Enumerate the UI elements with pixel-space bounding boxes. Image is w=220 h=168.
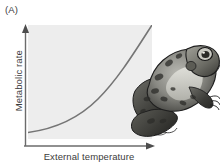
x-axis-label: External temperature: [24, 152, 154, 162]
y-axis-label: Metabolic rate: [14, 36, 24, 126]
frog-eye-highlight: [202, 51, 205, 53]
frog-illustration: [131, 33, 220, 143]
x-axis-arrowhead-icon: [146, 143, 155, 150]
y-axis-arrowhead-icon: [22, 24, 29, 33]
frog-tympanum: [186, 61, 196, 70]
figure-panel-a: (A) Metabolic rate External temperature: [0, 0, 220, 168]
panel-label: (A): [5, 5, 18, 15]
